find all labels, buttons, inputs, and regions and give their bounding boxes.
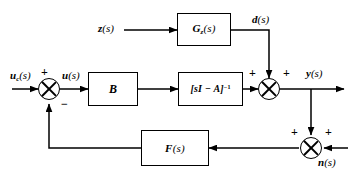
block-b-label: B [109,83,117,95]
sign-output-junction-plus-left: + [249,67,256,79]
sign-noise-junction-plus-right: + [325,126,332,138]
block-gz-label: Gz(s) [192,23,215,35]
block-b[interactable]: B [88,72,138,106]
signal-label-d: d(s) [252,14,269,25]
sign-noise-junction-plus-left: + [291,126,298,138]
block-diagram-canvas: Gz(s) B [sI − A]−1 F(s) z(s) d(s) uc(s) … [0,0,355,174]
block-f[interactable]: F(s) [141,130,209,166]
signal-label-noise: n(s) [318,157,336,168]
sign-error-junction-minus: − [61,98,68,110]
block-plant-resolvent[interactable]: [sI − A]−1 [178,72,243,106]
signal-label-output: y(s) [306,68,323,79]
summing-junction-error[interactable] [38,78,60,100]
block-f-label: F(s) [165,143,185,154]
sign-output-junction-plus-right: + [283,67,290,79]
signal-label-reference: uc(s) [10,70,31,82]
signal-label-z: z(s) [98,23,114,34]
sign-error-junction-plus: + [41,66,48,78]
signal-label-control: u(s) [62,70,80,81]
block-gz[interactable]: Gz(s) [177,13,231,46]
summing-junction-output[interactable] [258,78,280,100]
block-plant-resolvent-label: [sI − A]−1 [190,84,230,94]
